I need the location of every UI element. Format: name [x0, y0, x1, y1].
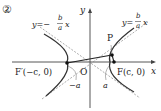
focus-left-point: [65, 61, 69, 65]
focus-right-point: [112, 60, 116, 64]
figure-number: ②: [2, 3, 12, 16]
hyperbola-diagram: ② y x O P F′(−c, 0) F(c, 0) −a a y=− b a…: [0, 0, 161, 111]
vertex-left-leader: [68, 66, 76, 80]
asymptote-left-label: y=− b a x: [31, 14, 70, 32]
asymptote-positive: [42, 22, 148, 99]
y-axis-label: y: [79, 5, 86, 15]
svg-text:b: b: [136, 12, 141, 20]
vertex-right-leader: [105, 66, 109, 80]
svg-text:x: x: [143, 18, 148, 27]
svg-text:y=−: y=−: [31, 20, 50, 29]
vertex-right-label: a: [103, 81, 108, 90]
y-axis-arrow: [88, 8, 92, 13]
origin-label: O: [80, 67, 87, 77]
svg-text:x: x: [65, 20, 70, 29]
svg-text:a: a: [136, 22, 140, 30]
focus-left-label: F′(−c, 0): [15, 67, 52, 77]
svg-text:y=: y=: [121, 18, 133, 27]
svg-text:b: b: [58, 14, 63, 22]
vertex-left-label: −a: [69, 81, 81, 90]
hyperbola-left-branch: [44, 34, 68, 96]
x-axis-arrow: [151, 60, 156, 64]
point-p-label: P: [107, 33, 113, 43]
x-axis-label: x: [151, 66, 156, 76]
svg-text:a: a: [58, 24, 62, 32]
focus-right-label: F(c, 0): [117, 67, 145, 77]
point-p: [110, 53, 114, 57]
asymptote-right-label: y= b a x: [121, 12, 148, 30]
